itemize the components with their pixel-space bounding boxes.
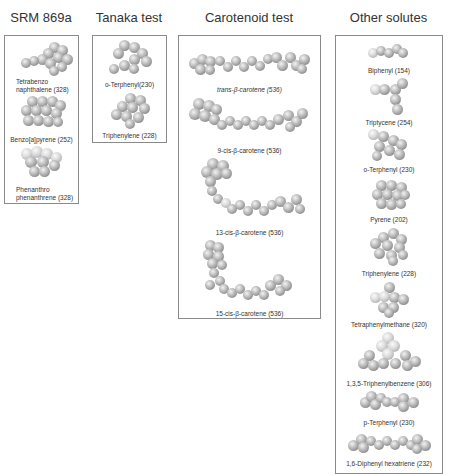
label-pyrene: Pyrene (202) [336, 216, 442, 224]
molecule-phenanthrophenanthrene [17, 146, 67, 182]
molecule-trans-beta-carotene [189, 50, 311, 80]
label-tetrabenzonaphthalene-2: naphthalene (328) [16, 86, 69, 94]
label-tetrabenzonaphthalene-1: Tetrabenzo [16, 78, 48, 86]
molecule-o-terphenyl-other [368, 129, 412, 163]
molecule-16-diphenyl-hexatriene [348, 432, 432, 456]
molecule-tetrabenzonaphthalene [19, 42, 75, 78]
label-15-cis-beta-carotene: 15-cis-β-carotene (536) [179, 310, 320, 318]
label-phenanthrophenanthrene-2: phenanthrene (328) [16, 194, 73, 202]
molecule-9-cis-beta-carotene [189, 98, 311, 138]
panel-carotenoid: trans-β-carotene (536) 9-cis-β-carotene … [178, 35, 321, 319]
molecule-biphenyl [368, 42, 410, 62]
molecule-p-terphenyl [360, 391, 420, 413]
molecule-triphenylene-other [368, 228, 412, 266]
label-16-diphenyl-hexatriene: 1,6-Diphenyl hexatriene (232) [336, 460, 442, 468]
label-135-triphenylbenzene: 1,3,5-Triphenylbenzene (306) [336, 380, 442, 388]
label-trans-beta-carotene: trans-β-carotene (536) [179, 86, 320, 94]
panel-tanaka: o-Terphenyl(230) Triphenylene (228) [92, 35, 167, 143]
label-triptycene: Triptycene (254) [336, 119, 442, 127]
group-title-other: Other solutes [335, 10, 442, 25]
label-o-terphenyl-other: o-Terphenyl (230) [336, 166, 442, 174]
molecule-triptycene [370, 78, 410, 116]
molecule-pyrene [370, 180, 410, 212]
label-biphenyl: Biphenyl (154) [336, 67, 442, 75]
group-title-srm: SRM 869a [4, 10, 78, 25]
label-tetraphenylmethane: Tetraphenylmethane (320) [336, 321, 442, 329]
molecule-13-cis-beta-carotene [199, 158, 309, 224]
label-9-cis-beta-carotene: 9-cis-β-carotene (536) [179, 147, 320, 155]
label-triphenylene-other: Triphenylene (228) [336, 270, 442, 278]
molecule-tetraphenylmethane [370, 282, 410, 318]
label-p-terphenyl: p-Terphenyl (230) [336, 419, 442, 427]
label-triphenylene-tanaka: Triphenylene (228) [93, 132, 166, 140]
molecule-135-triphenylbenzene [358, 332, 422, 374]
label-13-cis-beta-carotene: 13-cis-β-carotene (536) [179, 229, 320, 237]
molecule-15-cis-beta-carotene [199, 240, 299, 306]
group-title-carotenoid: Carotenoid test [178, 10, 320, 25]
group-title-tanaka: Tanaka test [92, 10, 166, 25]
panel-other-solutes: Biphenyl (154) Triptycene (254) o-Terphe… [335, 35, 443, 474]
molecule-benzo-a-pyrene [19, 96, 67, 132]
molecule-triphenylene-tanaka [109, 93, 153, 129]
label-o-terphenyl-tanaka: o-Terphenyl(230) [93, 81, 166, 89]
label-phenanthrophenanthrene-1: Phenanthro [16, 186, 50, 194]
label-benzo-a-pyrene: Benzo[a]pyrene (252) [5, 136, 78, 144]
molecule-o-terphenyl [107, 40, 153, 78]
panel-srm: Tetrabenzo naphthalene (328) Benzo[a]pyr… [4, 35, 79, 204]
